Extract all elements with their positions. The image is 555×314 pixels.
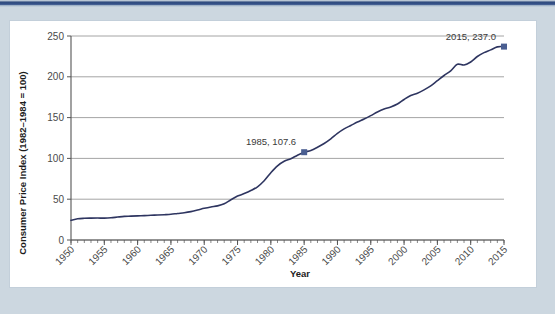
data-marker bbox=[501, 44, 507, 50]
data-annotation-label: 1985, 107.6 bbox=[246, 136, 296, 147]
x-tick-label: 1970 bbox=[186, 243, 210, 267]
y-tick-label: 50 bbox=[53, 194, 65, 205]
y-tick-label: 100 bbox=[47, 153, 64, 164]
y-tick-label: 0 bbox=[58, 235, 64, 246]
x-axis-title: Year bbox=[290, 268, 310, 279]
x-tick-label: 1965 bbox=[153, 243, 177, 267]
x-tick-label: 1990 bbox=[319, 243, 343, 267]
x-tick-label: 1985 bbox=[286, 243, 310, 267]
cpi-line-chart: 050100150200250 195019551960196519701975… bbox=[10, 21, 538, 289]
x-tick-label: 2005 bbox=[419, 243, 443, 267]
x-tick-label: 2015 bbox=[486, 243, 510, 267]
data-annotations: 1985, 107.62015, 237.0 bbox=[246, 31, 496, 148]
screenshot-root: 050100150200250 195019551960196519701975… bbox=[0, 0, 555, 314]
y-tick-label: 250 bbox=[47, 31, 64, 42]
data-annotation-label: 2015, 237.0 bbox=[446, 31, 496, 42]
window-top-bar bbox=[0, 0, 555, 7]
x-tick-label: 1950 bbox=[53, 243, 77, 267]
x-tick-label: 1960 bbox=[120, 243, 144, 267]
cpi-line-path bbox=[71, 47, 504, 221]
y-tick-label: 200 bbox=[47, 71, 64, 82]
x-tick-label: 1975 bbox=[219, 243, 243, 267]
y-axis-title: Consumer Price Index (1982–1984 = 100) bbox=[17, 71, 28, 255]
y-axis-ticks: 050100150200250 bbox=[47, 31, 71, 246]
x-tick-label: 1980 bbox=[253, 243, 277, 267]
x-tick-label: 2010 bbox=[453, 243, 477, 267]
x-tick-label: 1955 bbox=[86, 243, 110, 267]
y-tick-label: 150 bbox=[47, 112, 64, 123]
x-axis-ticks: 1950195519601965197019751980198519901995… bbox=[53, 240, 510, 267]
chart-panel: 050100150200250 195019551960196519701975… bbox=[9, 20, 537, 288]
data-marker bbox=[301, 149, 307, 155]
x-tick-label: 2000 bbox=[386, 243, 410, 267]
cpi-data-line bbox=[71, 47, 504, 221]
x-tick-label: 1995 bbox=[353, 243, 377, 267]
chart-svg: 050100150200250 195019551960196519701975… bbox=[10, 21, 538, 289]
